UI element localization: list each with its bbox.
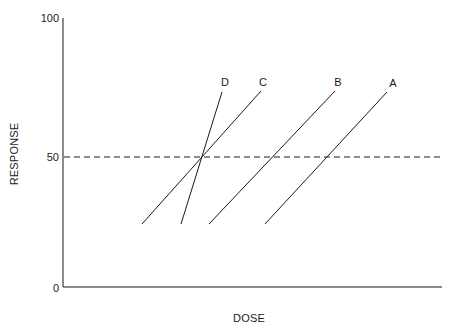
series-line-d [181,92,222,224]
series-label-c: C [259,76,267,88]
y-tick-0: 0 [53,282,59,294]
series-label-b: B [334,76,341,88]
series-label-a: A [389,77,397,89]
dose-response-chart: 100 50 0 RESPONSE DOSE D C B A [0,0,449,326]
x-axis-label: DOSE [233,312,265,324]
series-label-d: D [221,76,229,88]
series-line-a [265,92,387,224]
y-axis-label: RESPONSE [8,123,20,186]
y-tick-50: 50 [47,151,59,163]
y-tick-100: 100 [41,12,59,24]
